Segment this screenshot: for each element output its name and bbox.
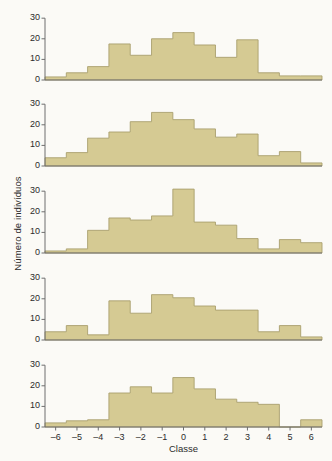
y-tick-label-p5-20: 20 bbox=[16, 380, 40, 390]
y-tick-label-p2-0: 0 bbox=[16, 160, 40, 170]
x-tick-label-8: 2 bbox=[216, 432, 236, 442]
x-tick-label-10: 4 bbox=[259, 432, 279, 442]
y-tick-label-p1-0: 0 bbox=[16, 74, 40, 84]
y-tick-label-p4-10: 10 bbox=[16, 313, 40, 323]
y-tick-label-p1-30: 30 bbox=[16, 12, 40, 22]
y-tick-label-p3-20: 20 bbox=[16, 206, 40, 216]
y-tick-label-p5-10: 10 bbox=[16, 400, 40, 410]
y-tick-label-p1-20: 20 bbox=[16, 33, 40, 43]
y-tick-label-p2-20: 20 bbox=[16, 119, 40, 129]
y-tick-label-p4-0: 0 bbox=[16, 334, 40, 344]
histogram-bars bbox=[45, 112, 322, 166]
y-tick-label-p3-0: 0 bbox=[16, 247, 40, 257]
x-axis-label: Classe bbox=[45, 443, 322, 454]
histogram-bars bbox=[45, 33, 322, 80]
x-tick-label-4: –2 bbox=[131, 432, 151, 442]
x-tick-label-2: –4 bbox=[88, 432, 108, 442]
histogram-bars bbox=[45, 378, 322, 427]
histogram-panel-1 bbox=[42, 18, 323, 80]
y-tick-label-p3-30: 30 bbox=[16, 185, 40, 195]
x-tick-label-7: 1 bbox=[195, 432, 215, 442]
y-tick-label-p5-30: 30 bbox=[16, 359, 40, 369]
x-tick-label-11: 5 bbox=[280, 432, 300, 442]
x-tick-label-6: 0 bbox=[174, 432, 194, 442]
histogram-panel-4 bbox=[42, 278, 323, 340]
histogram-panel-5 bbox=[42, 365, 323, 430]
x-tick-label-12: 6 bbox=[301, 432, 321, 442]
histogram-figure bbox=[0, 0, 332, 461]
histogram-panels-svg bbox=[0, 0, 332, 461]
x-tick-label-1: –5 bbox=[67, 432, 87, 442]
x-tick-label-5: –1 bbox=[152, 432, 172, 442]
y-tick-label-p2-10: 10 bbox=[16, 139, 40, 149]
histogram-panel-3 bbox=[42, 189, 323, 253]
x-tick-label-3: –3 bbox=[110, 432, 130, 442]
y-tick-label-p4-30: 30 bbox=[16, 272, 40, 282]
x-tick-label-0: –6 bbox=[46, 432, 66, 442]
y-tick-label-p1-10: 10 bbox=[16, 53, 40, 63]
y-tick-label-p4-20: 20 bbox=[16, 293, 40, 303]
y-tick-label-p5-0: 0 bbox=[16, 421, 40, 431]
y-tick-label-p3-10: 10 bbox=[16, 226, 40, 236]
y-tick-label-p2-30: 30 bbox=[16, 98, 40, 108]
histogram-bars bbox=[45, 295, 322, 340]
x-tick-label-9: 3 bbox=[237, 432, 257, 442]
histogram-bars bbox=[45, 189, 322, 253]
histogram-panel-2 bbox=[42, 104, 323, 166]
